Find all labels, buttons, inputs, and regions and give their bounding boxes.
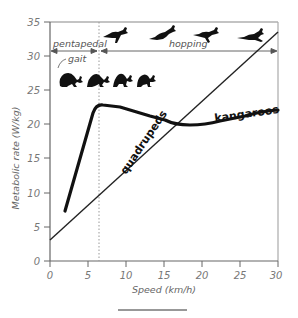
kangaroo-crouching-icon xyxy=(113,74,133,87)
y-tick-label: 25 xyxy=(27,85,40,96)
y-tick-label: 30 xyxy=(27,51,40,62)
y-tick-label: 5 xyxy=(34,222,40,233)
y-tick-labels: 0 5 10 15 20 25 30 35 xyxy=(27,17,40,267)
hopping-range-arrow xyxy=(101,49,277,54)
gait-label: gait xyxy=(68,53,87,64)
x-tick-label: 20 xyxy=(196,270,209,281)
x-tick-labels: 0 5 10 15 20 25 30 xyxy=(47,270,283,281)
metabolic-rate-chart: 0 5 10 15 20 25 30 35 0 5 10 15 20 25 30… xyxy=(0,0,298,318)
hopping-label: hopping xyxy=(169,38,208,49)
pentapedal-label: pentapedal xyxy=(52,38,107,49)
kangaroos-label: kangaroos xyxy=(214,103,281,125)
y-tick-label: 0 xyxy=(34,256,40,267)
kangaroo-crouching-icon xyxy=(137,75,156,88)
y-tick-label: 10 xyxy=(27,188,40,199)
x-axis-title: Speed (km/h) xyxy=(132,284,196,295)
x-tick-label: 5 xyxy=(85,270,91,281)
kangaroo-crouching-icon xyxy=(60,73,84,87)
x-tick-label: 0 xyxy=(47,270,53,281)
x-tick-label: 30 xyxy=(270,270,283,281)
y-tick-label: 15 xyxy=(27,153,40,164)
x-ticks xyxy=(50,261,278,267)
x-tick-label: 25 xyxy=(234,270,247,281)
pentapedal-kangaroo-silhouettes xyxy=(60,73,157,87)
y-tick-label: 20 xyxy=(27,119,40,130)
gait-pointer-arrow xyxy=(58,59,66,68)
y-ticks xyxy=(44,22,50,261)
x-tick-label: 15 xyxy=(158,270,171,281)
y-tick-label: 35 xyxy=(27,17,40,28)
kangaroos-series-line xyxy=(65,105,278,211)
kangaroo-hopping-icon xyxy=(237,28,264,42)
y-axis-title: Metabolic rate (W/kg) xyxy=(10,107,21,210)
x-tick-label: 10 xyxy=(120,270,133,281)
